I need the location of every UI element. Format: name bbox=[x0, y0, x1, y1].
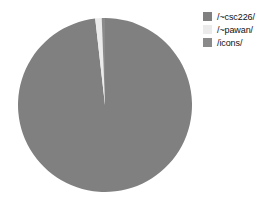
legend-item-pawan[interactable]: /~pawan/ bbox=[203, 24, 265, 35]
legend-swatch-csc226 bbox=[203, 12, 212, 21]
legend-label-csc226: /~csc226/ bbox=[217, 12, 255, 22]
legend-item-icons[interactable]: /icons/ bbox=[203, 37, 265, 48]
pie-slice[interactable] bbox=[18, 18, 192, 192]
pie-slice-group bbox=[18, 18, 192, 192]
pie-plot-area bbox=[16, 16, 194, 194]
pie-svg bbox=[16, 16, 194, 194]
legend-swatch-icons bbox=[203, 38, 212, 47]
pie-chart-figure: /~csc226/ /~pawan/ /icons/ bbox=[0, 0, 267, 204]
legend-swatch-pawan bbox=[203, 25, 212, 34]
legend-label-icons: /icons/ bbox=[217, 38, 242, 48]
legend-item-csc226[interactable]: /~csc226/ bbox=[203, 11, 265, 22]
legend-label-pawan: /~pawan/ bbox=[217, 25, 253, 35]
chart-legend: /~csc226/ /~pawan/ /icons/ bbox=[203, 11, 265, 48]
